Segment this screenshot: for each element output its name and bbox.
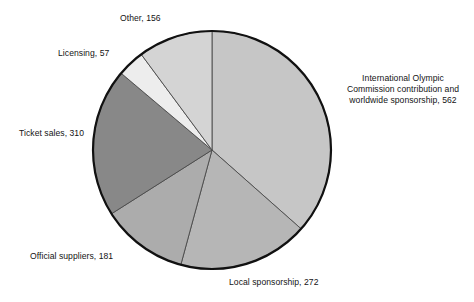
pie-slice-group [93,31,331,269]
slice-label-licensing: Licensing, 57 [58,48,109,59]
slice-label-ioc-contribution: International Olympic Commission contrib… [336,73,470,107]
slice-label-ticket-sales: Ticket sales, 310 [19,128,84,139]
slice-label-ioc-line3: worldwide sponsorship, 562 [349,95,456,105]
slice-label-local-sponsorship: Local sponsorship, 272 [229,277,318,288]
slice-label-other: Other, 156 [120,13,161,24]
slice-label-official-suppliers: Official suppliers, 181 [30,251,113,262]
pie-chart: International Olympic Commission contrib… [0,0,474,302]
slice-label-ioc-line1: International Olympic [362,73,444,83]
slice-label-ioc-line2: Commission contribution and [347,84,459,94]
